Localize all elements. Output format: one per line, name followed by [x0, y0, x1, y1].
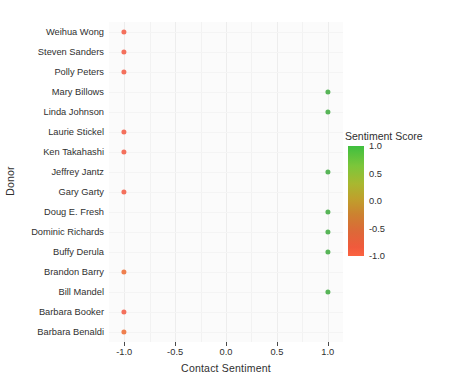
- grid-line-horizontal: [109, 152, 343, 153]
- grid-line-horizontal: [109, 212, 343, 213]
- grid-line-horizontal: [109, 92, 343, 93]
- y-axis-tick-label: Linda Johnson: [22, 106, 104, 118]
- y-axis-tick-label: Ken Takahashi: [22, 146, 104, 158]
- legend-colorbar: [348, 146, 364, 256]
- data-point[interactable]: [122, 269, 127, 274]
- grid-line-horizontal: [109, 252, 343, 253]
- x-axis-tick-mark: [175, 342, 176, 346]
- x-axis-tick-label: -1.0: [116, 347, 132, 357]
- y-axis-tick-label: Gary Garty: [22, 186, 104, 198]
- data-point[interactable]: [325, 89, 330, 94]
- data-point[interactable]: [325, 169, 330, 174]
- grid-line-vertical-minor: [251, 22, 252, 342]
- legend-tick-label: 0.5: [369, 169, 382, 179]
- grid-line-horizontal: [109, 272, 343, 273]
- data-point[interactable]: [122, 29, 127, 34]
- data-point[interactable]: [325, 209, 330, 214]
- legend-tick-label: 1.0: [369, 141, 382, 151]
- grid-line-horizontal: [109, 192, 343, 193]
- grid-line-horizontal: [109, 172, 343, 173]
- x-axis-tick-label: -0.5: [167, 347, 183, 357]
- grid-line-horizontal: [109, 292, 343, 293]
- grid-line-horizontal: [109, 112, 343, 113]
- y-axis-title: Donor: [4, 151, 16, 211]
- x-axis-ticks: -1.0-0.50.00.51.0: [109, 342, 343, 362]
- data-point[interactable]: [325, 249, 330, 254]
- grid-line-horizontal: [109, 232, 343, 233]
- y-axis-tick-label: Brandon Barry: [22, 266, 104, 278]
- data-point[interactable]: [122, 49, 127, 54]
- grid-line-horizontal: [109, 312, 343, 313]
- x-axis-title: Contact Sentiment: [109, 362, 343, 374]
- legend-tick-label: 0.0: [369, 196, 382, 206]
- legend-tick-label: -1.0: [369, 251, 385, 261]
- data-point[interactable]: [122, 69, 127, 74]
- y-axis-tick-label: Polly Peters: [22, 66, 104, 78]
- x-axis-tick-label: 0.5: [270, 347, 283, 357]
- grid-line-vertical: [226, 22, 227, 342]
- grid-line-horizontal: [109, 132, 343, 133]
- y-axis-tick-labels: Weihua WongSteven SandersPolly PetersMar…: [22, 25, 104, 340]
- data-point[interactable]: [325, 109, 330, 114]
- data-point[interactable]: [122, 189, 127, 194]
- grid-line-vertical-minor: [201, 22, 202, 342]
- grid-line-horizontal: [109, 72, 343, 73]
- grid-line-vertical: [277, 22, 278, 342]
- data-point[interactable]: [325, 289, 330, 294]
- data-point[interactable]: [122, 129, 127, 134]
- y-axis-tick-label: Barbara Benaldi: [22, 326, 104, 338]
- x-axis-tick-mark: [328, 342, 329, 346]
- y-axis-tick-label: Jeffrey Jantz: [22, 166, 104, 178]
- plot-panel: [109, 22, 343, 342]
- y-axis-tick-label: Bill Mandel: [22, 286, 104, 298]
- legend-title: Sentiment Score: [345, 130, 423, 142]
- y-axis-tick-label: Mary Billows: [22, 86, 104, 98]
- x-axis-tick-mark: [226, 342, 227, 346]
- data-point[interactable]: [122, 329, 127, 334]
- grid-line-vertical: [175, 22, 176, 342]
- x-axis-tick-label: 0.0: [220, 347, 233, 357]
- data-point[interactable]: [325, 229, 330, 234]
- y-axis-tick-label: Dominic Richards: [22, 226, 104, 238]
- x-axis-tick-label: 1.0: [321, 347, 334, 357]
- grid-line-vertical-minor: [302, 22, 303, 342]
- legend-tick-label: -0.5: [369, 224, 385, 234]
- grid-line-horizontal: [109, 32, 343, 33]
- y-axis-tick-label: Doug E. Fresh: [22, 206, 104, 218]
- x-axis-tick-mark: [124, 342, 125, 346]
- grid-line-horizontal: [109, 332, 343, 333]
- data-point[interactable]: [122, 309, 127, 314]
- grid-line-horizontal: [109, 52, 343, 53]
- y-axis-tick-label: Barbara Booker: [22, 306, 104, 318]
- data-point[interactable]: [122, 149, 127, 154]
- y-axis-tick-label: Buffy Derula: [22, 246, 104, 258]
- x-axis-tick-mark: [277, 342, 278, 346]
- y-axis-tick-label: Laurie Stickel: [22, 126, 104, 138]
- grid-line-vertical-minor: [150, 22, 151, 342]
- legend: Sentiment Score 1.00.50.0-0.5-1.0: [345, 130, 457, 265]
- scatter-plot: Donor Weihua WongSteven SandersPolly Pet…: [0, 0, 461, 385]
- y-axis-tick-label: Weihua Wong: [22, 26, 104, 38]
- y-axis-tick-label: Steven Sanders: [22, 46, 104, 58]
